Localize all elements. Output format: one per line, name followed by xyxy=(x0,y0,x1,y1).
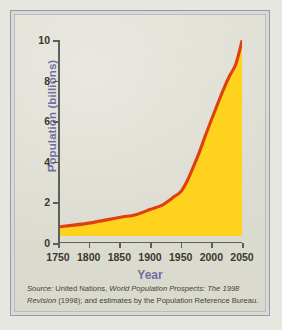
source-caption: Source: United Nations, World Population… xyxy=(27,283,251,307)
y-axis-spine xyxy=(58,40,60,243)
x-tick-mark xyxy=(242,243,244,248)
x-tick-label: 1900 xyxy=(138,251,161,263)
plot-svg xyxy=(58,40,242,243)
y-tick-label: 4 xyxy=(44,156,50,168)
x-tick-label: 1800 xyxy=(77,251,100,263)
y-tick-mark xyxy=(53,81,58,83)
x-tick-mark xyxy=(211,243,213,248)
y-tick-label: 0 xyxy=(44,237,50,249)
y-tick-label: 8 xyxy=(44,75,50,87)
population-area-fill xyxy=(58,41,242,236)
figure-container: Population (billions) 0246810 1750180018… xyxy=(0,0,282,330)
x-tick-label: 1950 xyxy=(169,251,192,263)
y-tick-mark xyxy=(53,121,58,123)
source-title-part-1: World Population Prospects: The 1998 xyxy=(109,284,239,293)
x-tick-label: 2000 xyxy=(200,251,223,263)
source-publisher: United Nations, xyxy=(53,284,109,293)
x-tick-mark xyxy=(119,243,121,248)
population-area-chart: Population (billions) 0246810 1750180018… xyxy=(14,14,260,266)
y-tick-label: 6 xyxy=(44,115,50,127)
x-tick-label: 2050 xyxy=(230,251,253,263)
x-tick-mark xyxy=(150,243,152,248)
y-tick-mark xyxy=(53,40,58,42)
source-caption-line-2: Revision (1998); and estimates by the Po… xyxy=(27,295,251,307)
x-tick-label: 1750 xyxy=(46,251,69,263)
source-title-part-2: Revision xyxy=(27,296,56,305)
y-tick-mark xyxy=(53,162,58,164)
x-tick-mark xyxy=(58,243,60,248)
y-tick-label: 10 xyxy=(38,34,50,46)
y-tick-label: 2 xyxy=(44,196,50,208)
area-fill-group xyxy=(58,41,242,236)
x-tick-mark xyxy=(89,243,91,248)
x-axis-title: Year xyxy=(58,268,242,282)
source-estimates-note: (1998); and estimates by the Population … xyxy=(56,296,258,305)
plot-area: 0246810 1750180018501900195020002050 Yea… xyxy=(58,40,242,243)
x-tick-mark xyxy=(181,243,183,248)
y-tick-mark xyxy=(53,202,58,204)
source-caption-line-1: Source: United Nations, World Population… xyxy=(27,283,251,295)
x-tick-label: 1850 xyxy=(108,251,131,263)
source-label: Source: xyxy=(27,284,53,293)
